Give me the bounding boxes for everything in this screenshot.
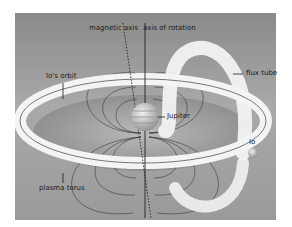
label-plasma-torus: plasma torus [39, 185, 85, 192]
label-io-orbit: Io's orbit [46, 73, 76, 80]
label-flux-tube: flux tube [246, 70, 277, 77]
label-jupiter: Jupiter [167, 113, 190, 120]
io-moon [248, 148, 258, 158]
label-magnetic-axis: magnetic axis [89, 25, 138, 32]
label-io: Io [249, 139, 255, 146]
label-axis-of-rotation: axis of rotation [143, 25, 196, 32]
diagram-panel: magnetic axis axis of rotation Io's orbi… [15, 13, 276, 220]
